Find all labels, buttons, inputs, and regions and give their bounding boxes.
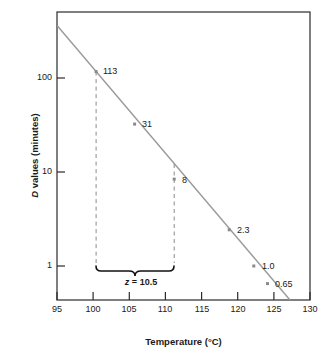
z-equals-sign: =	[132, 277, 137, 287]
y-axis-title-text: values (minutes)	[29, 113, 40, 191]
data-point-marker	[133, 123, 136, 126]
data-point-marker	[266, 282, 269, 285]
x-tick-label-105: 105	[117, 305, 141, 314]
x-tick-label-95: 95	[45, 305, 69, 314]
x-tick-label-125: 125	[262, 305, 286, 314]
z-value-annotation: z = 10.5	[101, 277, 181, 287]
data-point-marker	[95, 70, 98, 73]
data-point-label-31: 31	[142, 120, 152, 129]
data-point-label-0-65: 0.65	[275, 280, 293, 289]
y-tick-label-1: 1	[24, 261, 52, 270]
data-point-label-8: 8	[182, 176, 187, 185]
x-tick-label-120: 120	[226, 305, 250, 314]
x-tick-label-115: 115	[190, 305, 214, 314]
data-point-marker	[228, 228, 231, 231]
y-axis-title: D values (minutes)	[29, 56, 40, 256]
x-tick-label-110: 110	[153, 305, 177, 314]
x-tick-label-100: 100	[81, 305, 105, 314]
z-symbol: z	[125, 277, 130, 287]
data-point-label-2-3: 2.3	[237, 226, 250, 235]
thermal-death-time-chart: 100 10 1 95 100 105 110 115 120 125 130 …	[0, 0, 330, 358]
x-tick-label-130: 130	[298, 305, 322, 314]
plot-frame	[57, 12, 310, 300]
z-value: 10.5	[140, 277, 158, 287]
data-point-label-1-0: 1.0	[262, 262, 275, 271]
data-point-label-113: 113	[103, 67, 117, 76]
data-point-marker	[252, 265, 255, 268]
y-axis-title-symbol: D	[29, 191, 40, 198]
data-point-marker	[173, 178, 176, 181]
x-axis-title: Temperature (°C)	[57, 336, 310, 347]
